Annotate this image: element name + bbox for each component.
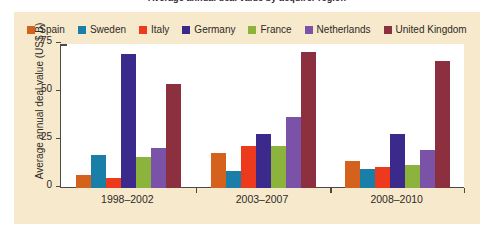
legend-swatch-icon (139, 26, 147, 34)
x-axis-category-label: 2003–2007 (195, 192, 330, 206)
legend-label: United Kingdom (396, 25, 467, 35)
bar-group (61, 44, 196, 188)
bar (405, 165, 420, 188)
bar (286, 117, 301, 188)
bar (241, 146, 256, 188)
bar-group (196, 44, 331, 188)
legend-swatch-icon (248, 26, 256, 34)
bar (301, 52, 316, 188)
bar (360, 169, 375, 188)
bar (226, 171, 241, 188)
y-axis-tick-label: 0 (46, 179, 52, 191)
legend-item[interactable]: France (248, 25, 291, 35)
x-axis-category-label: 2008–2010 (329, 192, 464, 206)
legend-item[interactable]: Germany (182, 25, 235, 35)
y-axis-tick-label: 50 (41, 83, 52, 95)
chart-legend: SpainSwedenItalyGermanyFranceNetherlands… (14, 22, 480, 38)
legend-item[interactable]: Italy (139, 25, 169, 35)
bar (91, 155, 106, 188)
y-axis-tick: 75 (56, 42, 61, 44)
y-axis-tick-label: 25 (41, 131, 52, 143)
bar (166, 84, 181, 188)
bar-group (330, 44, 465, 188)
bar (211, 153, 226, 188)
bar (256, 134, 271, 188)
chart-panel: SpainSwedenItalyGermanyFranceNetherlands… (14, 12, 480, 224)
legend-swatch-icon (305, 26, 313, 34)
legend-label: France (260, 25, 291, 35)
legend-label: Netherlands (317, 25, 371, 35)
bar (345, 161, 360, 188)
plot-wrapper: 0255075 (60, 44, 464, 188)
bar (136, 157, 151, 188)
legend-swatch-icon (78, 26, 86, 34)
bar (121, 54, 136, 188)
legend-swatch-icon (384, 26, 392, 34)
x-axis-category-labels: 1998–20022003–20072008–2010 (60, 192, 464, 206)
bar (375, 167, 390, 188)
x-axis-category-label: 1998–2002 (60, 192, 195, 206)
bar (76, 175, 91, 188)
bar (151, 148, 166, 188)
bar (271, 146, 286, 188)
legend-label: Italy (151, 25, 169, 35)
legend-item[interactable]: Netherlands (305, 25, 371, 35)
bar (435, 61, 450, 188)
legend-item[interactable]: United Kingdom (384, 25, 467, 35)
legend-swatch-icon (182, 26, 190, 34)
plot-area: 0255075 (60, 44, 464, 188)
chart-figure: Average annual deal value by acquirer re… (0, 0, 494, 240)
bar (106, 178, 121, 188)
bar (390, 134, 405, 188)
bar-groups (61, 44, 465, 188)
y-axis-tick-label: 75 (41, 35, 52, 47)
legend-item[interactable]: Sweden (78, 25, 126, 35)
legend-label: Germany (194, 25, 235, 35)
legend-label: Sweden (90, 25, 126, 35)
figure-title-partial: Average annual deal value by acquirer re… (0, 0, 494, 9)
bar (420, 150, 435, 188)
